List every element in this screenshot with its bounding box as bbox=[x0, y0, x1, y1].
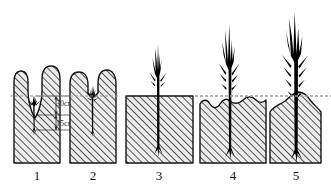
planting-depth-figure: 30cm 15cm 1 2 bbox=[0, 0, 331, 188]
soil-block-3 bbox=[126, 96, 193, 163]
panel-stage-1: 30cm 15cm 1 bbox=[14, 66, 75, 183]
panel-stage-3: 3 bbox=[126, 44, 193, 183]
panel-stage-4: 4 bbox=[200, 24, 266, 183]
panel-number-3: 3 bbox=[156, 168, 163, 183]
panel-number-1: 1 bbox=[34, 168, 41, 183]
panel-number-5: 5 bbox=[293, 168, 300, 183]
figure-canvas: 30cm 15cm 1 2 bbox=[0, 0, 331, 188]
panel-stage-5: 5 bbox=[270, 12, 321, 183]
panel-number-4: 4 bbox=[230, 168, 237, 183]
panel-stage-2: 2 bbox=[70, 70, 116, 183]
soil-block-1 bbox=[14, 66, 60, 163]
panel-number-2: 2 bbox=[90, 168, 97, 183]
